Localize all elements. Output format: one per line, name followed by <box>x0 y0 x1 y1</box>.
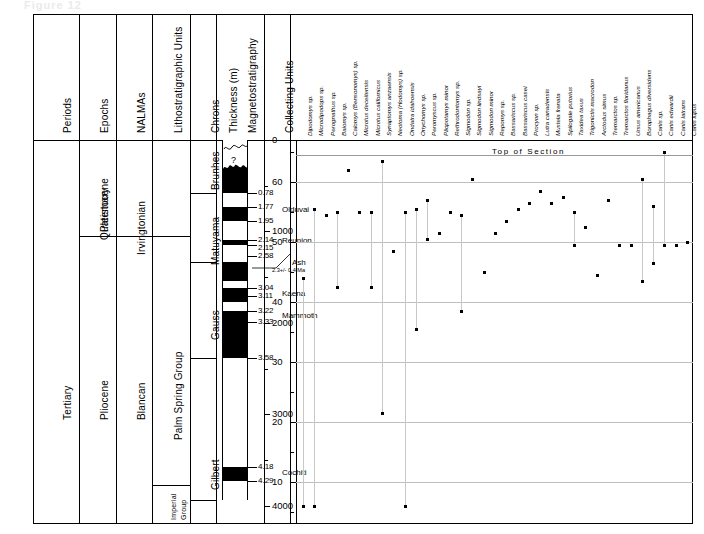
range-stem <box>303 278 304 506</box>
range-stem <box>314 209 315 506</box>
age-leader-12 <box>248 481 257 482</box>
age-label-0.78: 0.78 <box>258 188 274 197</box>
occurrence-point-bottom <box>313 505 316 508</box>
header-lithostratigraphic-units: Lithostratigraphic Units <box>173 26 184 133</box>
collecting-unit-tick-label: 40 <box>272 296 283 307</box>
species-label: Ursus americanus <box>634 86 641 136</box>
chron-brunhes: Brunhes <box>210 151 221 190</box>
header-periods: Periods <box>62 98 73 133</box>
occurrence-point-top <box>517 208 520 211</box>
occurrence-point-top <box>505 220 508 223</box>
collecting-unit-minor-tick <box>290 452 294 453</box>
occurrence-point-top <box>618 244 621 247</box>
age-leader-11 <box>248 467 257 468</box>
occurrence-point-top <box>494 232 497 235</box>
chron-gauss: Gauss <box>210 310 221 340</box>
thickness-tick-label: 0 <box>272 134 277 145</box>
occurrence-point-top <box>415 208 418 211</box>
species-label: Baiomys sp. <box>340 102 347 136</box>
species-label: Microdipodops sp. <box>317 86 324 136</box>
plot-gridline <box>296 302 693 303</box>
chron-bottom-divider <box>190 500 216 501</box>
species-label: Perognathus sp. <box>329 91 336 136</box>
species-label: Synaptomys anzaensis <box>385 72 392 136</box>
age-label-1.95: 1.95 <box>258 216 274 225</box>
species-label: Sigmodon lindsayi <box>475 86 482 136</box>
age-leader-3 <box>248 240 257 241</box>
occurrence-point-bottom <box>663 244 666 247</box>
occurrence-point-top <box>336 211 339 214</box>
range-stem <box>427 200 428 239</box>
occurrence-point-top <box>686 241 689 244</box>
age-leader-2 <box>248 221 257 222</box>
collecting-unit-minor-tick <box>290 512 294 513</box>
thickness-minor-tick <box>264 369 268 370</box>
occurrence-point-bottom <box>381 412 384 415</box>
plot-area <box>296 140 693 524</box>
range-stem <box>664 152 665 245</box>
species-label: Canis edwardii <box>667 95 674 136</box>
nalma-irvingtonian: Irvingtonian <box>136 201 147 255</box>
collecting-unit-tick-label: 20 <box>272 416 283 427</box>
species-label: Rethrodontomys sp. <box>453 81 460 136</box>
occurrence-point-top <box>392 250 395 253</box>
species-label: Spilogale putorius <box>566 87 573 136</box>
species-label: Procyon sp. <box>532 103 539 136</box>
thickness-axis-line <box>264 140 265 524</box>
occurrence-point-top <box>404 211 407 214</box>
chron-divider-matuyama-gauss <box>190 262 216 263</box>
species-label: Canis lupus <box>690 104 697 136</box>
chron-divider-brunhes-matuyama <box>190 193 216 194</box>
species-label: Taxidea taxus <box>577 98 584 136</box>
col-sep-nalmas <box>152 14 153 524</box>
collecting-unit-minor-tick <box>290 212 294 213</box>
collecting-unit-tick-label: 10 <box>272 476 283 487</box>
collecting-unit-tick-label: 30 <box>272 356 283 367</box>
occurrence-point-bottom <box>336 286 339 289</box>
occurrence-point-bottom <box>641 280 644 283</box>
collecting-unit-tick-label: 50 <box>272 236 283 247</box>
occurrence-point-top <box>381 160 384 163</box>
age-label-4.18: 4.18 <box>258 462 274 471</box>
chron-gilbert: Gilbert <box>210 459 221 490</box>
thickness-minor-tick <box>264 186 268 187</box>
species-label: Tremarctos sp. <box>611 95 618 136</box>
range-stem <box>371 212 372 287</box>
species-label: Mustela frenata <box>554 93 561 136</box>
occurrence-point-top <box>562 196 565 199</box>
magneto-reunion-block <box>223 240 248 245</box>
occurrence-point-top <box>652 205 655 208</box>
age-label-1.77: 1.77 <box>258 202 274 211</box>
plot-gridline <box>296 482 693 483</box>
species-label: Borophagus diversidens <box>645 70 652 136</box>
age-leader-8 <box>248 311 257 312</box>
thickness-tick <box>264 140 270 141</box>
species-label: Microtus californicus <box>374 80 381 136</box>
collecting-unit-minor-tick <box>290 332 294 333</box>
range-stem <box>642 179 643 281</box>
occurrence-point-top <box>358 211 361 214</box>
thickness-minor-tick <box>264 277 268 278</box>
species-label: Sigmodon sp. <box>464 98 471 136</box>
species-label: Arctodus simus <box>600 94 607 136</box>
magneto-brunhes-block <box>223 163 248 193</box>
species-label: Microtus deceitensis <box>362 80 369 136</box>
species-label: Sigmodon minor <box>487 91 494 136</box>
magneto-cochiti-block <box>223 467 248 481</box>
collecting-unit-minor-tick <box>290 152 294 153</box>
thickness-tick <box>264 414 270 415</box>
thickness-minor-tick <box>264 460 268 461</box>
age-leader-4 <box>248 245 257 246</box>
range-stem <box>574 212 575 245</box>
range-stem <box>461 215 462 311</box>
age-leader-6 <box>248 288 257 289</box>
species-label: Pliopotamys minor <box>442 85 449 136</box>
nalma-divider-irvingtonian-blancan <box>152 236 190 237</box>
quaternary-pleistocene-divider <box>116 236 152 237</box>
occurrence-point-top <box>302 277 305 280</box>
age-label-3.11: 3.11 <box>258 291 273 300</box>
species-label: Onychomys sp. <box>419 93 426 136</box>
species-label: Peromyscus sp. <box>430 92 437 136</box>
occurrence-point-top <box>370 211 373 214</box>
age-label-3.22: 3.22 <box>258 306 274 315</box>
